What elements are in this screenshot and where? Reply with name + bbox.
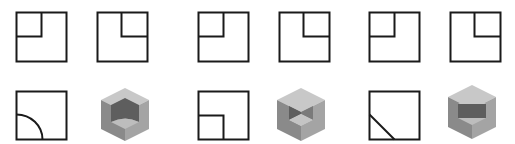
group-3-top-view bbox=[368, 90, 421, 142]
group-2-side-view bbox=[278, 11, 331, 63]
group-2-top-view bbox=[197, 90, 250, 142]
group-3-isometric-solid bbox=[446, 84, 498, 142]
group-2-isometric-solid bbox=[275, 87, 327, 143]
group-1-top-view bbox=[15, 90, 68, 142]
group-3-side-view bbox=[449, 11, 502, 63]
group-1-side-view bbox=[96, 11, 149, 63]
group-1-front-view bbox=[15, 11, 68, 63]
group-1-isometric-solid bbox=[99, 87, 151, 143]
group-3-front-view bbox=[368, 11, 421, 63]
group-2-front-view bbox=[197, 11, 250, 63]
